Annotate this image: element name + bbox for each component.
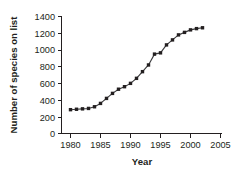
data-series-group — [69, 26, 204, 111]
data-point — [183, 31, 186, 34]
data-point — [105, 97, 108, 100]
data-point — [123, 85, 126, 88]
data-point — [117, 88, 120, 91]
data-point — [99, 102, 102, 105]
data-point — [189, 28, 192, 31]
chart-container: 1400 1200 1000 800 600 400 200 0 1980 19… — [0, 0, 231, 172]
y-tick-label-800: 800 — [40, 62, 55, 72]
y-axis-tick-labels: 1400 1200 1000 800 600 400 200 0 — [35, 12, 55, 139]
x-tick-label-1980: 1980 — [60, 140, 80, 150]
x-tick-label-1995: 1995 — [150, 140, 170, 150]
y-tick-label-1200: 1200 — [35, 29, 55, 39]
data-point — [129, 82, 132, 85]
data-point — [159, 51, 162, 54]
y-tick-label-600: 600 — [40, 79, 55, 89]
data-point — [81, 107, 84, 110]
y-axis-ticks — [58, 17, 62, 134]
data-point — [111, 92, 114, 95]
line-chart: 1400 1200 1000 800 600 400 200 0 1980 19… — [0, 0, 231, 172]
y-tick-label-400: 400 — [40, 96, 55, 106]
data-point — [135, 77, 138, 80]
x-tick-label-2005: 2005 — [210, 140, 230, 150]
x-tick-label-2000: 2000 — [180, 140, 200, 150]
data-point — [141, 70, 144, 73]
y-axis-title: Number of species on list — [8, 16, 19, 134]
data-point — [69, 108, 72, 111]
series-markers — [69, 26, 204, 111]
data-point — [93, 105, 96, 108]
y-tick-label-1400: 1400 — [35, 12, 55, 22]
data-point — [171, 38, 174, 41]
y-tick-label-200: 200 — [40, 113, 55, 123]
data-point — [87, 107, 90, 110]
data-point — [147, 63, 150, 66]
x-axis-ticks — [71, 134, 221, 139]
data-point — [195, 27, 198, 30]
data-point — [75, 108, 78, 111]
x-axis-tick-labels: 1980 1985 1990 1995 2000 2005 — [60, 140, 230, 150]
y-tick-label-1000: 1000 — [35, 45, 55, 55]
x-tick-label-1990: 1990 — [120, 140, 140, 150]
data-point — [177, 33, 180, 36]
x-tick-label-1985: 1985 — [90, 140, 110, 150]
x-axis-title: Year — [132, 156, 153, 167]
data-point — [153, 52, 156, 55]
data-point — [165, 43, 168, 46]
series-line-number-of-species — [71, 28, 203, 110]
y-tick-label-0: 0 — [50, 129, 55, 139]
data-point — [201, 26, 204, 29]
